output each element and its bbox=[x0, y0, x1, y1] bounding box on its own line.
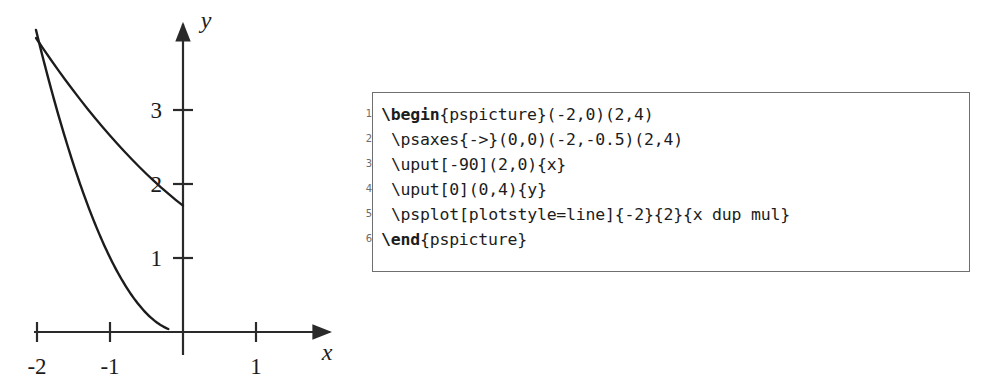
line-number: 4 bbox=[354, 176, 372, 201]
y-tick-label-3: 3 bbox=[151, 98, 163, 123]
parabola-figure: -2 -1 1 1 2 3 x y bbox=[0, 0, 360, 389]
code-line-text: \begin{pspicture}(-2,0)(2,4) bbox=[373, 102, 654, 127]
code-line-rest: \psaxes{->}(0,0)(-2,-0.5)(2,4) bbox=[391, 130, 683, 149]
code-line: \end{pspicture} bbox=[373, 227, 969, 252]
code-line: \begin{pspicture}(-2,0)(2,4) bbox=[373, 102, 969, 127]
y-tick-label-2: 2 bbox=[151, 172, 163, 197]
x-tick-label-minus2: -2 bbox=[27, 354, 46, 379]
x-tick-label-minus1: -1 bbox=[100, 354, 119, 379]
code-line: \uput[-90](2,0){x} bbox=[373, 152, 969, 177]
parabola-svg: -2 -1 1 1 2 3 x y bbox=[0, 0, 360, 389]
code-line: \psplot[plotstyle=line]{-2}{2}{x dup mul… bbox=[373, 202, 969, 227]
line-number: 3 bbox=[354, 151, 372, 176]
x-tick-label-1: 1 bbox=[250, 354, 262, 379]
y-tick-label-1: 1 bbox=[151, 246, 163, 271]
parabola-graph bbox=[36, 30, 168, 329]
code-line-rest: {pspicture} bbox=[420, 230, 527, 249]
code-line-text: \end{pspicture} bbox=[373, 227, 527, 252]
line-number: 6 bbox=[354, 226, 372, 251]
code-line: \uput[0](0,4){y} bbox=[373, 177, 969, 202]
code-line-text: \uput[-90](2,0){x} bbox=[373, 152, 566, 177]
code-keyword: \begin bbox=[381, 105, 439, 124]
line-number: 5 bbox=[354, 201, 372, 226]
line-number: 1 bbox=[354, 101, 372, 126]
code-line-text: \uput[0](0,4){y} bbox=[373, 177, 547, 202]
line-number: 2 bbox=[354, 126, 372, 151]
x-axis-label: x bbox=[321, 339, 333, 365]
code-line-rest: \uput[-90](2,0){x} bbox=[391, 155, 566, 174]
code-line-rest: \uput[0](0,4){y} bbox=[391, 180, 547, 199]
code-listing-box: \begin{pspicture}(-2,0)(2,4) \psaxes{->}… bbox=[372, 92, 970, 272]
code-keyword: \end bbox=[381, 230, 420, 249]
y-axis-label: y bbox=[199, 7, 212, 33]
code-line: \psaxes{->}(0,0)(-2,-0.5)(2,4) bbox=[373, 127, 969, 152]
code-line-rest: \psplot[plotstyle=line]{-2}{2}{x dup mul… bbox=[391, 205, 790, 224]
code-line-number-gutter: 1 2 3 4 5 6 bbox=[354, 92, 372, 272]
code-line-text: \psplot[plotstyle=line]{-2}{2}{x dup mul… bbox=[373, 202, 790, 227]
code-line-rest: {pspicture}(-2,0)(2,4) bbox=[439, 105, 653, 124]
code-line-text: \psaxes{->}(0,0)(-2,-0.5)(2,4) bbox=[373, 127, 683, 152]
code-lines: \begin{pspicture}(-2,0)(2,4) \psaxes{->}… bbox=[373, 93, 969, 261]
